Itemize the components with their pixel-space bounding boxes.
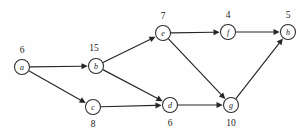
node-layer: a6b15c8d6e7f4g10h5 — [15, 10, 296, 129]
graph-node-e[interactable]: e7 — [156, 11, 171, 41]
node-label-e: e — [161, 29, 165, 38]
node-weight-h: 5 — [286, 10, 291, 20]
node-weight-c: 8 — [91, 119, 96, 129]
edge-c-to-d — [101, 102, 161, 108]
edge-line — [169, 39, 221, 94]
edge-d-to-g — [178, 102, 222, 108]
graph-node-f[interactable]: f4 — [221, 10, 236, 40]
edge-line — [171, 32, 213, 33]
node-label-g: g — [229, 101, 233, 110]
node-label-h: h — [286, 28, 290, 37]
edge-b-to-d — [103, 70, 162, 101]
edge-line — [29, 71, 80, 100]
edge-line — [236, 43, 279, 98]
node-label-c: c — [91, 103, 95, 112]
node-label-b: b — [94, 62, 98, 71]
node-weight-b: 15 — [89, 43, 99, 53]
edge-layer — [29, 29, 283, 108]
edge-e-to-g — [169, 39, 226, 99]
edge-a-to-b — [30, 63, 87, 69]
graph-node-c[interactable]: c8 — [86, 100, 101, 130]
node-label-a: a — [20, 63, 24, 72]
graph-node-b[interactable]: b15 — [89, 43, 104, 74]
edge-g-to-h — [236, 39, 283, 99]
edge-b-to-e — [103, 37, 155, 63]
graph-node-d[interactable]: d6 — [163, 98, 178, 129]
node-weight-e: 7 — [161, 11, 166, 21]
graph-node-g[interactable]: g10 — [224, 98, 239, 129]
node-weight-a: 6 — [20, 45, 25, 55]
arrowhead-icon — [213, 29, 219, 35]
edge-e-to-f — [171, 29, 219, 35]
node-weight-d: 6 — [168, 118, 173, 128]
graph-node-a[interactable]: a6 — [15, 45, 30, 75]
edge-a-to-c — [29, 71, 86, 103]
graph-node-h[interactable]: h5 — [281, 10, 296, 40]
graph-canvas: a6b15c8d6e7f4g10h5 — [0, 0, 306, 134]
arrowhead-icon — [155, 102, 161, 108]
node-weight-g: 10 — [226, 118, 236, 128]
edge-line — [103, 39, 150, 62]
edge-line — [101, 105, 155, 106]
arrowhead-icon — [274, 29, 280, 35]
arrowhead-icon — [277, 39, 283, 46]
arrowhead-icon — [81, 63, 87, 69]
edge-line — [30, 66, 81, 67]
graph-figure: a6b15c8d6e7f4g10h5 — [0, 0, 306, 134]
edge-f-to-h — [236, 29, 279, 35]
node-weight-f: 4 — [226, 10, 231, 20]
edge-line — [103, 70, 157, 98]
arrowhead-icon — [217, 102, 223, 108]
